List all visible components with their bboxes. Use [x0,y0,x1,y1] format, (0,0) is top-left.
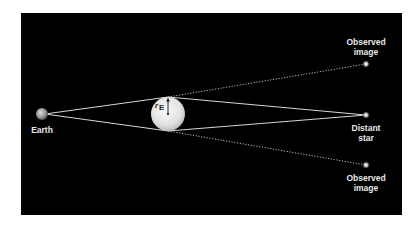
distant-star-label-line1: Distant [352,123,381,133]
observed-image-bottom-icon [362,161,370,169]
observed-image-top-icon [362,60,370,68]
einstein-radius-subscript: E [159,103,165,112]
distant-star-icon [362,111,370,119]
distant-star-label-line2: star [358,133,374,143]
microlensing-diagram: Earth r E Distant star Observed image Ob… [0,0,420,228]
lens-center-dot [167,113,169,115]
observed-image-top-label-line2: image [354,47,379,57]
background-panel [21,13,402,215]
earth-icon [36,108,48,120]
observed-image-top-label-line1: Observed [346,37,385,47]
observed-image-bottom-label-line2: image [354,183,379,193]
observed-image-bottom-label-line1: Observed [346,173,385,183]
earth-label: Earth [31,125,53,135]
